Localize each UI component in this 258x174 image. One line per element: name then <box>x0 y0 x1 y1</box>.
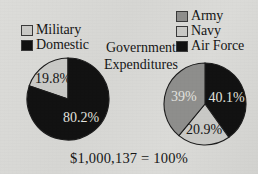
pie-chart-branches[interactable]: 40.1%20.9%39% <box>163 62 247 146</box>
legend-item-domestic[interactable]: Domestic <box>21 38 89 52</box>
pie-chart-figure: Military Domestic Army Navy Air Force Go… <box>0 0 258 174</box>
legend-item-army[interactable]: Army <box>176 9 244 23</box>
legend-swatch-domestic-icon <box>21 40 33 51</box>
legend-label-army: Army <box>191 9 223 23</box>
legend-expenditure: Military Domestic <box>21 23 89 52</box>
legend-swatch-military-icon <box>21 25 33 36</box>
legend-item-military[interactable]: Military <box>21 23 89 37</box>
pie-branches-svg: 40.1%20.9%39% <box>163 62 247 146</box>
legend-item-navy[interactable]: Navy <box>176 24 244 38</box>
pie-slice-label-navy: 20.9% <box>186 122 223 137</box>
pie-chart-expenditure[interactable]: 19.8%80.2% <box>26 57 110 141</box>
legend-branches: Army Navy Air Force <box>176 9 244 53</box>
legend-label-air-force: Air Force <box>191 39 244 53</box>
legend-label-military: Military <box>36 23 81 37</box>
pie-slice-label-air-force: 40.1% <box>208 90 245 105</box>
pie-slice-label-military: 19.8% <box>35 71 71 86</box>
legend-label-navy: Navy <box>191 24 221 38</box>
pie-slice-label-army: 39% <box>171 89 197 104</box>
total-caption: $1,000,137 = 100% <box>0 150 258 167</box>
pie-expenditure-svg: 19.8%80.2% <box>26 57 110 141</box>
pie-slice-label-domestic: 80.2% <box>63 110 100 125</box>
legend-swatch-navy-icon <box>176 26 188 37</box>
legend-swatch-army-icon <box>176 11 188 22</box>
legend-item-air-force[interactable]: Air Force <box>176 39 244 53</box>
legend-label-domestic: Domestic <box>36 38 89 52</box>
chart-title-line-1: Government <box>99 40 183 57</box>
